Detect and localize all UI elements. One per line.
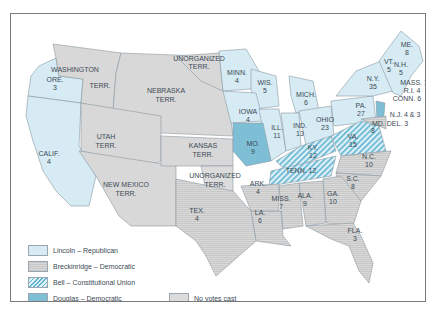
label-unorganized-south: UNORGANIZED — [189, 172, 241, 179]
votes-vermont: 5 — [387, 66, 391, 73]
votes-south-carolina: 8 — [351, 183, 355, 190]
votes-missouri: 9 — [251, 148, 255, 155]
label-louisiana: LA. — [255, 209, 266, 216]
votes-florida: 3 — [353, 235, 357, 242]
votes-ohio: 23 — [321, 124, 329, 131]
label-indiana: IND. — [293, 122, 307, 129]
label-nebraska: NEBRASKA — [147, 87, 185, 94]
label-illinois: ILL. — [271, 124, 283, 131]
votes-maryland: 8 — [371, 127, 375, 134]
label-tennessee: TENN. 12 — [286, 167, 317, 174]
swatch-douglas — [28, 293, 48, 303]
label-unorganized-south-terr: TERR. — [205, 181, 226, 188]
label-rhode-island: R.I. 4 — [404, 87, 421, 94]
region-florida — [306, 223, 373, 283]
label-connecticut: CONN. 6 — [393, 95, 422, 102]
label-new-hampshire: N.H. — [394, 61, 408, 68]
legend-label-douglas: Douglas – Democratic — [53, 295, 122, 302]
label-massachusetts: MASS. 13 — [400, 79, 426, 86]
legend-douglas: Douglas – Democratic — [28, 292, 122, 302]
legend-bell: Bell – Constitutional Union — [28, 276, 135, 288]
label-nebraska-terr: TERR. — [156, 96, 177, 103]
label-iowa: IOWA — [239, 108, 258, 115]
label-kentucky: KY. — [308, 144, 318, 151]
label-ohio: OHIO — [316, 116, 334, 123]
legend-label-bell: Bell – Constitutional Union — [53, 279, 135, 286]
label-oregon: ORE. — [46, 76, 63, 83]
label-maryland-delaware: MD. DEL. 3 — [372, 120, 408, 127]
votes-oregon: 3 — [53, 84, 57, 91]
swatch-lincoln — [28, 245, 48, 256]
votes-iowa: 4 — [246, 116, 250, 123]
votes-kentucky: 12 — [309, 152, 317, 159]
votes-maine: 8 — [405, 49, 409, 56]
label-unorganized-north-terr: TERR. — [189, 63, 210, 70]
label-wisconsin: WIS. — [257, 79, 272, 86]
swatch-bell — [28, 277, 48, 288]
swatch-no-votes — [169, 293, 189, 303]
label-florida: FLA. — [348, 227, 363, 234]
swatch-breckinridge — [28, 261, 48, 272]
legend-no-votes: No votes cast — [169, 292, 236, 302]
votes-pennsylvania: 27 — [357, 110, 365, 117]
votes-california: 4 — [47, 158, 51, 165]
label-washington: WASHINGTON — [51, 66, 99, 73]
label-pennsylvania: PA. — [356, 102, 367, 109]
votes-texas: 4 — [195, 215, 199, 222]
legend-breckinridge: Breckinridge – Democratic — [28, 260, 135, 272]
votes-new-hampshire: 5 — [399, 69, 403, 76]
label-texas: TEX. — [189, 207, 205, 214]
label-mississippi: MISS. — [271, 195, 290, 202]
votes-arkansas: 4 — [256, 188, 260, 195]
votes-new-york: 35 — [369, 83, 377, 90]
label-maine: ME. — [401, 41, 414, 48]
label-alabama: ALA. — [297, 192, 312, 199]
label-new-jersey: N.J. 4 & 3 — [390, 111, 421, 118]
votes-alabama: 9 — [303, 200, 307, 207]
label-georgia: GA. — [327, 190, 339, 197]
label-washington-terr: TERR. — [90, 82, 111, 89]
label-kansas: KANSAS — [189, 142, 218, 149]
label-michigan: MICH. — [296, 91, 316, 98]
votes-louisiana: 6 — [258, 217, 262, 224]
label-kansas-terr: TERR. — [193, 151, 214, 158]
label-utah-terr: TERR. — [96, 142, 117, 149]
label-new-york: N.Y. — [367, 75, 380, 82]
votes-north-carolina: 10 — [365, 161, 373, 168]
label-utah: UTAH — [97, 133, 116, 140]
legend-lincoln: Lincoln – Republican — [28, 244, 118, 256]
us-map-1860: WASHINGTON TERR. UNORGANIZED TERR. NEBRA… — [11, 14, 426, 302]
legend-label-lincoln: Lincoln – Republican — [53, 247, 118, 254]
label-california: CALIF. — [38, 150, 59, 157]
votes-wisconsin: 5 — [263, 87, 267, 94]
label-missouri: MO. — [246, 140, 259, 147]
label-minnesota: MINN. — [227, 69, 247, 76]
votes-georgia: 10 — [329, 198, 337, 205]
votes-mississippi: 7 — [279, 203, 283, 210]
label-virginia: VA. — [348, 133, 359, 140]
legend-label-no-votes: No votes cast — [194, 295, 236, 302]
votes-illinois: 11 — [273, 132, 280, 139]
votes-minnesota: 4 — [235, 77, 239, 84]
label-vermont: VT. — [384, 58, 394, 65]
votes-michigan: 6 — [304, 99, 308, 106]
label-arkansas: ARK. — [250, 180, 266, 187]
map-frame: WASHINGTON TERR. UNORGANIZED TERR. NEBRA… — [10, 13, 426, 302]
label-south-carolina: S.C. — [346, 175, 360, 182]
label-north-carolina: N.C. — [362, 153, 376, 160]
votes-virginia: 15 — [349, 141, 357, 148]
label-new-mexico-terr: TERR. — [116, 190, 137, 197]
legend-label-breckinridge: Breckinridge – Democratic — [53, 263, 135, 270]
label-new-mexico: NEW MEXICO — [103, 181, 149, 188]
label-unorganized-north: UNORGANIZED — [173, 55, 225, 62]
votes-indiana: 13 — [296, 130, 304, 137]
